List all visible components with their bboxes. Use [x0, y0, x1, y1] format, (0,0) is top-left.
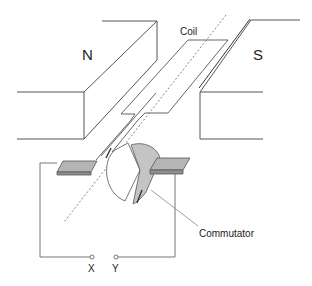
terminal-x-label: X [88, 263, 95, 274]
north-pole-label: N [82, 46, 93, 63]
left-brush [57, 161, 97, 175]
dc-motor-diagram: N S Coil Commutator X Y [0, 0, 312, 286]
terminal-x-node [90, 255, 94, 259]
terminal-y-node [114, 255, 118, 259]
coil [96, 40, 228, 160]
commutator-label: Commutator [199, 228, 255, 239]
south-magnet [199, 19, 300, 139]
south-pole-label: S [253, 46, 263, 63]
right-brush [150, 158, 190, 174]
terminal-y-label: Y [112, 263, 119, 274]
north-magnet [17, 21, 157, 139]
coil-label: Coil [180, 26, 197, 37]
